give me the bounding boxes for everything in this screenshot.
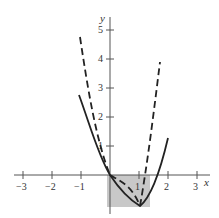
y-tick-label: 5 [98,24,103,35]
dashed-curve-left [80,37,110,175]
x-tick-label: 2 [164,181,169,192]
x-axis-label: x [203,176,209,188]
x-tick-label: 1 [135,181,140,192]
x-tick-label: −2 [45,181,56,192]
y-tick-label: 4 [98,53,103,64]
y-axis-label: y [99,12,105,24]
x-tick-label: 3 [193,181,198,192]
x-tick-label: −1 [74,181,85,192]
x-tick-label: −3 [16,181,27,192]
y-tick-label: 2 [98,111,103,122]
y-tick-label: 3 [98,82,103,93]
chart: −3 −2 −1 1 2 3 x 1 2 3 4 5 y [0,0,219,218]
y-tick-labels: 1 2 3 4 5 [98,24,103,151]
